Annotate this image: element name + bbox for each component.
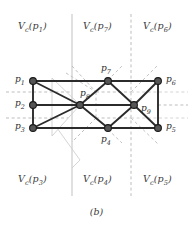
vertex-label-index: 6 [172,79,176,87]
region-label-paren-close: ) [108,20,112,31]
region-label-vc-p1: Vc(p1) [18,20,47,34]
voronoi-edge-p6-diag [131,65,158,92]
graph-vertex-p9 [131,102,138,109]
graph-edge-p7-p9 [108,81,134,105]
region-label-paren-close: ) [108,173,112,184]
vertex-label-p7: p7 [101,63,111,76]
vertex-label-index: 5 [172,126,176,134]
vertex-label-p3: p3 [15,121,25,134]
region-label-vc-p5: Vc(p5) [143,173,172,187]
region-label-v: V [143,173,150,184]
graph-edge-p8-p4 [80,105,108,128]
region-label-paren-close: ) [168,173,172,184]
figure-caption: (b) [0,206,193,217]
region-label-vc-p6: Vc(p6) [143,20,172,34]
graph-edge-p9-p6 [134,81,158,105]
graph-vertex-p5 [155,125,162,132]
vertex-label-p9: p9 [141,103,151,116]
graph-edge-p4-p9 [108,105,134,128]
graph-vertex-p6 [155,78,162,85]
region-label-vc-p7: Vc(p7) [83,20,112,34]
graph-vertex-p3 [30,125,37,132]
region-label-vc-p3: Vc(p3) [18,173,47,187]
region-label-v: V [18,20,25,31]
voronoi-graph-figure: Vc(p1)Vc(p7)Vc(p6)Vc(p3)Vc(p4)Vc(p5) p1p… [0,0,193,236]
graph-vertex-p8 [77,102,84,109]
region-label-v: V [143,20,150,31]
vertex-label-p4: p4 [101,134,111,147]
voronoi-edge-p5-diag [131,118,158,144]
vertex-label-p1: p1 [15,74,25,87]
region-label-paren-close: ) [168,20,172,31]
vertex-label-index: 3 [21,126,25,134]
vertex-label-p6: p6 [166,74,176,87]
construction-line-e [72,160,80,168]
construction-line-d [57,128,80,160]
graph-vertex-p4 [105,125,112,132]
graph-edge-p3-p8 [33,105,80,128]
region-label-vc-p4: Vc(p4) [83,173,112,187]
vertex-label-index: 1 [21,79,25,87]
graph-vertex-p2 [30,102,37,109]
vertex-label-index: 7 [107,68,111,76]
vertex-label-p5: p5 [166,121,176,134]
vertex-label-p2: p2 [15,98,25,111]
figure-canvas [0,0,193,236]
region-label-paren-close: ) [43,20,47,31]
region-label-paren-close: ) [43,173,47,184]
region-label-v: V [83,20,90,31]
vertex-label-index: 9 [147,108,151,116]
vertex-label-index: 8 [86,93,90,101]
region-label-v: V [18,173,25,184]
vertex-label-p8: p8 [80,88,90,101]
voronoi-edge-p8-p3-diag [72,118,96,142]
construction-line-c [52,105,80,136]
graph-vertex-p1 [30,78,37,85]
vertex-label-index: 4 [107,139,111,147]
vertex-label-index: 2 [21,103,25,111]
region-label-v: V [83,173,90,184]
graph-edge-p1-p8 [33,81,80,105]
graph-vertex-p7 [105,78,112,85]
